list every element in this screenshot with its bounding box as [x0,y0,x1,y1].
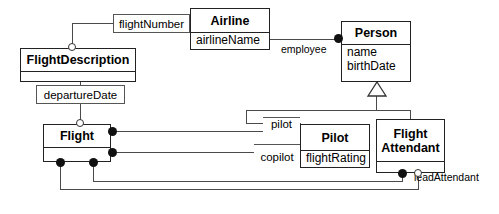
association-end-filled-person [334,34,343,43]
qualifier-box-departuredate[interactable]: departureDate [36,85,125,104]
association-label-employee: employee [281,44,327,55]
connector-departuredate-down [80,104,81,120]
attribute-flightrating: flightRating [306,152,364,166]
attribute-airlinename: airlineName [196,34,264,48]
class-box-person[interactable]: Person name birthDate [341,21,411,82]
connector-flight-pilot [111,131,263,132]
class-box-airline[interactable]: Airline airlineName [190,8,270,50]
attribute-name: name [347,46,405,60]
association-end-hollow-leadattendant [414,169,422,177]
class-name-flight: Flight [44,125,110,147]
association-end-filled-flight-copilot [108,148,117,157]
class-box-flight[interactable]: Flight [43,124,111,162]
connector-airline-person [270,39,341,40]
class-box-flightattendant[interactable]: Flight Attendant [376,119,445,173]
uml-diagram-canvas: Airline airlineName Person name birthDat… [0,0,499,214]
connector-flight-bottom-1-across [60,189,419,190]
association-end-filled-flight-bottom-2 [89,158,98,167]
association-end-hollow-flightdescription [68,43,76,51]
connector-flight-copilot [111,152,254,153]
class-attributes-flight [44,147,110,161]
connector-flightnumber-left [72,23,114,24]
class-name-flightattendant: Flight Attendant [377,120,444,161]
attribute-birthdate: birthDate [347,60,405,74]
class-attributes-airline: airlineName [191,32,269,49]
class-attributes-pilot: flightRating [301,150,369,167]
class-name-person: Person [342,22,410,44]
qualifier-box-flightnumber[interactable]: flightNumber [113,14,190,33]
role-box-copilot[interactable]: copilot [254,144,300,163]
class-attributes-person: name birthDate [342,44,410,81]
association-end-filled-flight-bottom-1 [56,158,65,167]
class-name-pilot: Pilot [301,125,369,150]
association-label-leadattendant: leadAttendant [414,172,479,183]
association-end-filled-flightattendant [398,169,407,178]
qualifier-label-departuredate: departureDate [44,89,118,101]
role-label-pilot: pilot [271,118,292,130]
class-box-flightdescription[interactable]: FlightDescription [20,48,136,82]
class-name-airline: Airline [191,9,269,32]
role-label-copilot: copilot [260,151,293,163]
connector-generalization-to-pilot [246,110,247,124]
association-end-hollow-flight [76,119,84,127]
role-box-pilot[interactable]: pilot [263,117,300,133]
connector-person-generalization-stem [376,95,377,111]
generalization-triangle-icon [367,82,387,97]
connector-generalization-bar [246,110,411,111]
class-box-pilot[interactable]: Pilot flightRating [300,124,370,168]
qualifier-label-flightnumber: flightNumber [119,18,184,30]
class-attributes-flightdescription [21,71,135,81]
connector-flight-bottom-2-across [93,181,403,182]
class-name-flightdescription: FlightDescription [21,49,135,71]
association-end-filled-flight-pilot [108,127,117,136]
connector-flightnumber-down [72,23,73,44]
